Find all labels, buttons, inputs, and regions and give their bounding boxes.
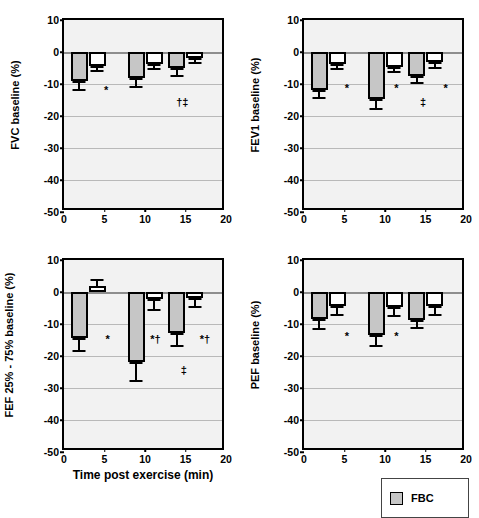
error-bar-cap <box>313 97 326 99</box>
y-tick-label: -20 <box>44 350 59 362</box>
y-tick-label: 10 <box>287 254 299 266</box>
y-tick-label: 0 <box>293 46 299 58</box>
x-tick-label: 5 <box>102 453 108 465</box>
bar-control-3min <box>329 292 346 306</box>
bar-fbc-3min <box>71 52 88 81</box>
error-bar-inner-cap <box>410 320 423 322</box>
error-bar-inner-cap <box>130 78 143 80</box>
y-tick-label: -50 <box>44 206 59 218</box>
bar-fbc-3min <box>311 292 328 319</box>
x-tick-label: 0 <box>61 213 67 225</box>
error-bar-cap <box>188 62 201 64</box>
x-tick-mark <box>185 448 187 452</box>
y-tick-label: -30 <box>284 382 299 394</box>
error-bar-cap <box>130 380 143 382</box>
y-tick-mark <box>60 387 64 389</box>
bar-control-3min <box>329 52 346 64</box>
x-tick-label: 15 <box>420 453 432 465</box>
panel-pef: PEF baseline (%) 100-10-20-30-40-5005101… <box>240 240 479 480</box>
error-bar-inner-cap <box>148 299 161 301</box>
y-tick-label: -20 <box>284 350 299 362</box>
x-tick-label: 0 <box>301 213 307 225</box>
error-bar-cap <box>91 279 104 281</box>
y-tick-mark <box>300 419 304 421</box>
error-bar-cap <box>410 327 423 329</box>
x-tick-mark <box>384 208 386 212</box>
y-tick-mark <box>300 179 304 181</box>
x-tick-label: 10 <box>139 213 151 225</box>
error-bar-cap <box>91 70 104 72</box>
error-bar-inner-cap <box>428 306 441 308</box>
x-tick-label: 5 <box>342 213 348 225</box>
y-tick-label: 10 <box>47 14 59 26</box>
gridline <box>304 148 462 149</box>
y-tick-mark <box>300 115 304 117</box>
y-tick-label: -20 <box>284 110 299 122</box>
x-tick-mark <box>104 448 106 452</box>
y-tick-label: -10 <box>44 78 59 90</box>
error-bar-inner-cap <box>73 338 86 340</box>
panel-fef-ylabel: FEF 25% - 75% baseline (%) <box>0 240 18 450</box>
x-tick-mark <box>185 208 187 212</box>
y-tick-mark <box>300 51 304 53</box>
error-bar-cap <box>388 315 401 317</box>
x-tick-label: 20 <box>220 453 232 465</box>
error-bar-cap <box>370 108 383 110</box>
y-tick-label: 0 <box>53 46 59 58</box>
x-tick-mark <box>425 208 427 212</box>
x-tick-label: 15 <box>180 213 192 225</box>
gridline <box>304 180 462 181</box>
y-tick-mark <box>60 259 64 261</box>
legend: FBC <box>381 478 469 518</box>
y-tick-label: -50 <box>44 446 59 458</box>
y-tick-label: -40 <box>284 414 299 426</box>
y-tick-mark <box>60 419 64 421</box>
x-tick-label: 10 <box>379 453 391 465</box>
bar-fbc-10min <box>368 292 385 335</box>
y-tick-mark <box>60 323 64 325</box>
y-tick-mark <box>60 291 64 293</box>
gridline <box>304 116 462 117</box>
panel-pef-ylabel: PEF baseline (%) <box>246 240 264 450</box>
x-tick-mark <box>104 208 106 212</box>
y-tick-mark <box>300 147 304 149</box>
error-bar-cap <box>73 350 86 352</box>
bar-fbc-15min <box>408 52 425 76</box>
error-bar-cap <box>370 345 383 347</box>
x-tick-mark <box>144 208 146 212</box>
y-tick-mark <box>60 51 64 53</box>
y-tick-label: -50 <box>284 446 299 458</box>
y-tick-label: -50 <box>284 206 299 218</box>
gridline <box>64 420 222 421</box>
y-tick-label: -20 <box>44 110 59 122</box>
error-bar-inner-cap <box>130 362 143 364</box>
error-bar-inner-cap <box>188 298 201 300</box>
y-tick-mark <box>300 323 304 325</box>
x-tick-label: 15 <box>420 213 432 225</box>
error-bar-inner-cap <box>73 81 86 83</box>
error-bar-inner-cap <box>331 64 344 66</box>
y-tick-label: -30 <box>284 142 299 154</box>
y-tick-label: -10 <box>44 318 59 330</box>
x-tick-label: 20 <box>460 453 472 465</box>
error-bar-cap <box>188 306 201 308</box>
x-tick-mark <box>425 448 427 452</box>
bar-fbc-10min <box>128 292 145 362</box>
gridline <box>304 356 462 357</box>
error-bar-inner-cap <box>188 58 201 60</box>
x-tick-label: 15 <box>180 453 192 465</box>
gridline <box>64 388 222 389</box>
y-tick-mark <box>60 355 64 357</box>
error-bar-cap <box>148 309 161 311</box>
x-tick-label: 5 <box>102 213 108 225</box>
y-tick-label: 0 <box>293 286 299 298</box>
significance-marker: * <box>444 83 448 94</box>
error-bar-inner-cap <box>170 333 183 335</box>
panel-fvc-plot: 100-10-20-30-40-5005101520*†‡ <box>62 18 224 210</box>
bar-fbc-3min <box>311 52 328 90</box>
significance-marker: * <box>394 331 398 342</box>
y-tick-mark <box>300 83 304 85</box>
error-bar-inner-cap <box>331 306 344 308</box>
x-axis-title: Time post exercise (min) <box>62 468 224 482</box>
